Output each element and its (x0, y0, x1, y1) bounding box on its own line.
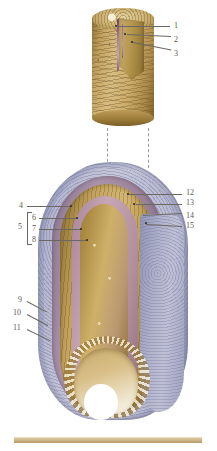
leader-line-8 (39, 240, 87, 241)
target-dot-8 (86, 239, 88, 241)
leader-line-4 (27, 206, 71, 207)
label-13: 13 (186, 199, 194, 207)
scale-bar (14, 437, 202, 443)
label-8: 8 (32, 236, 36, 244)
label-11: 11 (13, 324, 21, 332)
cylinder-base (92, 110, 154, 126)
label-2: 2 (174, 36, 178, 44)
label-12: 12 (186, 189, 194, 197)
leader-line-6 (39, 218, 77, 219)
epiphysis-section-figure (28, 160, 193, 425)
target-dot-4 (70, 205, 72, 207)
leader-line-7 (39, 229, 81, 230)
target-dot-2 (124, 33, 126, 35)
label-7: 7 (32, 225, 36, 233)
target-dot-12 (127, 193, 129, 195)
target-dot-7 (80, 228, 82, 230)
osteon-cylinder-figure (92, 6, 154, 128)
label-9: 9 (18, 296, 22, 304)
leader-line-1 (118, 26, 170, 27)
label-15: 15 (186, 222, 194, 230)
label-6: 6 (32, 214, 36, 222)
target-dot-13 (133, 203, 135, 205)
leader-line-12 (129, 194, 182, 195)
target-dot-15 (145, 222, 147, 224)
label-10: 10 (13, 309, 21, 317)
illustration-plate: 1 2 3 4 5 6 7 8 9 10 11 12 13 14 15 (0, 0, 217, 451)
target-dot-1 (115, 25, 117, 27)
target-dot-6 (76, 217, 78, 219)
label-1: 1 (174, 22, 178, 30)
label-4: 4 (19, 202, 23, 210)
label-5: 5 (18, 223, 22, 231)
label-14: 14 (186, 212, 194, 220)
marrow-cavity-notch (84, 384, 118, 420)
leader-line-13 (136, 204, 182, 205)
label-3: 3 (174, 50, 178, 58)
target-dot-3 (131, 41, 133, 43)
